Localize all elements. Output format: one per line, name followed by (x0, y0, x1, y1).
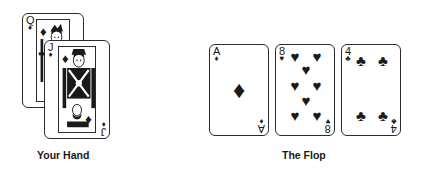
heart-pip-icon: ♥ (313, 49, 322, 64)
club-pip-icon: ♣ (378, 107, 388, 122)
heart-pip-icon: ♥ (301, 92, 310, 107)
card-corner-bottom-right: A ♦ (258, 117, 265, 133)
diamond-pip-icon: ♦ (28, 24, 32, 32)
club-pip-icon: ♣ (356, 52, 366, 67)
club-pip-icon: ♣ (391, 117, 396, 125)
card-jack-of-diamonds[interactable]: J ♦ ♦ (44, 40, 110, 139)
club-pip-icon: ♣ (356, 107, 366, 122)
heart-pip-icon: ♥ (326, 117, 331, 125)
club-pip-icon: ♣ (378, 52, 388, 67)
card-four-of-clubs[interactable]: 4 ♣ ♣ ♣ ♣ ♣ 4 ♣ (341, 44, 401, 136)
diamond-pip-icon: ♦ (49, 51, 53, 59)
heart-pip-icon: ♥ (290, 49, 299, 64)
card-eight-of-hearts[interactable]: 8 ♥ ♥ ♥ ♥ ♥ ♥ ♥ ♥ ♥ 8 ♥ (275, 44, 335, 136)
the-flop-caption: The Flop (282, 149, 326, 161)
heart-pip-icon: ♥ (290, 107, 299, 122)
heart-pip-icon: ♥ (313, 107, 322, 122)
heart-pip-icon: ♥ (313, 78, 322, 93)
heart-pip-icon: ♥ (301, 61, 310, 76)
jack-portrait-frame: ♦ (58, 46, 96, 133)
diamond-pip-icon: ♦ (85, 114, 92, 127)
card-corner-bottom-right: 4 ♣ (391, 117, 397, 133)
diamond-pip-icon: ♦ (210, 78, 268, 102)
pip-layout-eight: ♥ ♥ ♥ ♥ ♥ ♥ ♥ ♥ (282, 49, 328, 131)
heart-pip-icon: ♥ (290, 78, 299, 93)
diamond-pip-icon: ♦ (62, 52, 69, 65)
diamond-pip-icon: ♦ (259, 117, 263, 125)
diamond-pip-icon: ♦ (214, 55, 218, 63)
card-corner-top-left: Q ♦ (26, 16, 34, 32)
card-face-art: 8 ♥ ♥ ♥ ♥ ♥ ♥ ♥ ♥ ♥ 8 ♥ (276, 45, 334, 135)
card-corner-top-left: J ♦ (48, 43, 53, 59)
diamond-pip-icon: ♦ (101, 120, 105, 128)
card-corner-top-left: A ♦ (213, 47, 220, 63)
card-face-art: J ♦ ♦ (45, 41, 109, 138)
card-face-art: 4 ♣ ♣ ♣ ♣ ♣ 4 ♣ (342, 45, 400, 135)
card-corner-bottom-right: J ♦ (101, 120, 106, 136)
card-ace-of-diamonds[interactable]: A ♦ ♦ A ♦ (209, 44, 269, 136)
card-corner-bottom-right: 8 ♥ (325, 117, 331, 133)
your-hand-caption: Your Hand (37, 149, 89, 161)
pip-layout-four: ♣ ♣ ♣ ♣ (348, 49, 394, 131)
diamond-pip-icon: ♦ (40, 25, 47, 38)
card-face-art: A ♦ ♦ A ♦ (210, 45, 268, 135)
